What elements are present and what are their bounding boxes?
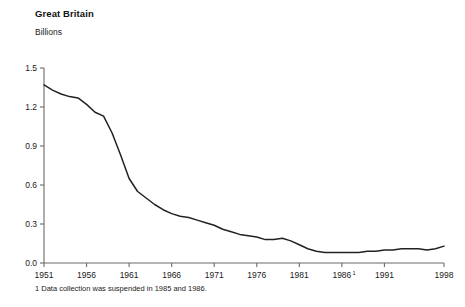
x-axis: 1951195619611966197119761981198611991199… (35, 263, 454, 280)
x-axis-tick-label: 1956 (77, 270, 96, 280)
y-axis-tick-label: 0.0 (25, 258, 37, 268)
x-axis-tick-label: 1976 (247, 270, 266, 280)
chart-figure: Great Britain Billions 0.00.30.60.91.21.… (0, 0, 465, 307)
x-axis-tick-label: 1991 (375, 270, 394, 280)
x-axis-tick-label-superscript: 1 (352, 270, 355, 276)
x-axis-tick-label: 1986 (332, 270, 351, 280)
x-axis-tick-label: 1961 (120, 270, 139, 280)
y-axis-tick-label: 1.5 (25, 63, 37, 73)
series-line-great-britain (44, 85, 444, 253)
chart-plot-area: 0.00.30.60.91.21.5 195119561961196619711… (0, 0, 465, 307)
x-axis-tick-label: 1981 (290, 270, 309, 280)
data-series-line (44, 85, 444, 253)
y-axis: 0.00.30.60.91.21.5 (25, 63, 44, 268)
chart-footnote: 1 Data collection was suspended in 1985 … (35, 284, 207, 293)
y-axis-tick-label: 1.2 (25, 102, 37, 112)
x-axis-tick-label: 1966 (162, 270, 181, 280)
y-axis-tick-label: 0.3 (25, 219, 37, 229)
x-axis-tick-label: 1951 (35, 270, 54, 280)
x-axis-tick-label: 1971 (205, 270, 224, 280)
y-axis-tick-label: 0.6 (25, 180, 37, 190)
y-axis-tick-label: 0.9 (25, 141, 37, 151)
x-axis-tick-label: 1998 (435, 270, 454, 280)
